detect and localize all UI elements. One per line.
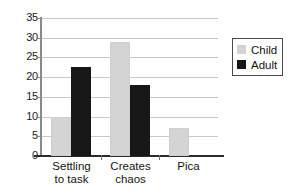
y-axis-tick-label: 10 [4,111,38,122]
x-axis-separator [101,155,102,160]
x-axis-label-line2: chaos [101,173,160,186]
plot-area [42,18,218,156]
y-axis-tick-label: 20 [4,71,38,82]
y-axis-tick-label: 5 [4,130,38,141]
bar-child-1 [110,42,130,156]
child-swatch-icon [237,45,246,54]
x-axis-label-line1: Settling [52,160,90,172]
y-axis-tick-label: 25 [4,51,38,62]
bar-child-2 [169,128,189,156]
x-axis-label-2: Pica [159,160,218,173]
x-axis-label-line2: to task [42,173,101,186]
x-axis-label-line1: Pica [177,160,199,172]
bar-child-0 [51,117,71,156]
x-axis-label-line1: Creates [110,160,150,172]
x-axis-label-0: Settlingto task [42,160,101,186]
bar-adult-1 [130,85,150,156]
adult-swatch-icon [237,60,246,69]
x-axis-separator [159,155,160,160]
bar-adult-0 [71,67,91,156]
legend-label-child: Child [251,44,277,56]
chart-legend: Child Adult [232,38,283,76]
legend-item-child: Child [237,42,277,57]
y-axis-tick-label: 35 [4,12,38,23]
x-axis-label-1: Createschaos [101,160,160,186]
legend-label-adult: Adult [251,59,277,71]
y-axis-tick-labels: 35302520151050 [0,0,38,194]
y-axis-tick-label: 15 [4,91,38,102]
bar-chart: 35302520151050 Settlingto taskCreatescha… [0,0,301,194]
x-axis-category-labels: Settlingto taskCreateschaosPica [42,160,232,194]
legend-item-adult: Adult [237,57,277,72]
y-axis-tick-label: 30 [4,32,38,43]
y-axis-tick-label: 0 [4,150,38,161]
